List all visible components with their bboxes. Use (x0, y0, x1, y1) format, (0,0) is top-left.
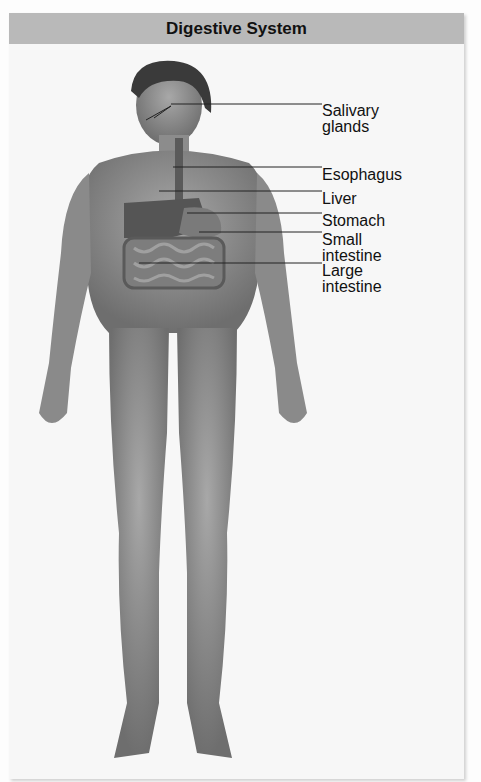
label-esophagus: Esophagus (322, 167, 402, 183)
right-arm (255, 173, 307, 423)
left-leg (109, 328, 169, 758)
human-body-illustration (9, 13, 464, 779)
left-arm (39, 173, 91, 423)
label-small-intestine: Small intestine (322, 232, 382, 264)
label-salivary-glands: Salivary glands (322, 103, 379, 135)
esophagus-organ (175, 138, 183, 208)
label-large-intestine: Large intestine (322, 263, 382, 295)
right-leg (177, 328, 237, 758)
label-liver: Liver (322, 191, 357, 207)
label-stomach: Stomach (322, 213, 385, 229)
diagram-panel: Digestive System (9, 13, 464, 779)
